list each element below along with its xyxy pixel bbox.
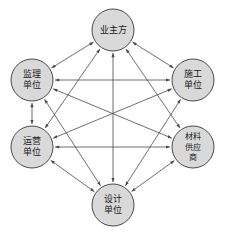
node-label-operation: 单位	[23, 146, 41, 157]
node-label-supplier: 商	[189, 152, 197, 162]
edge-operation-to-design	[51, 160, 95, 191]
node-supervision[interactable]: 监理单位	[11, 59, 53, 101]
node-label-supplier: 供应	[185, 142, 201, 152]
node-label-operation: 运营	[23, 135, 41, 146]
nodes-layer: 业主方监理单位施工单位运营单位材料供应商设计单位	[11, 9, 214, 226]
node-label-supervision: 监理	[23, 68, 41, 79]
edge-owner-to-operation	[45, 49, 100, 128]
graph-canvas: 业主方监理单位施工单位运营单位材料供应商设计单位	[0, 0, 226, 234]
node-supplier[interactable]: 材料供应商	[172, 126, 214, 168]
node-owner[interactable]: 业主方	[92, 9, 134, 51]
node-label-design: 设计	[104, 193, 122, 204]
edge-owner-to-supplier	[126, 49, 180, 128]
edge-owner-to-supervision	[52, 42, 94, 68]
node-label-supplier: 材料	[185, 131, 201, 141]
edges-layer	[32, 42, 181, 192]
node-operation[interactable]: 运营单位	[11, 126, 53, 168]
edge-owner-to-construction	[133, 42, 174, 68]
node-label-construction: 施工	[184, 68, 202, 79]
node-construction[interactable]: 施工单位	[172, 59, 214, 101]
node-design[interactable]: 设计单位	[92, 184, 134, 226]
node-label-construction: 单位	[184, 79, 202, 90]
stakeholder-relationship-diagram: 业主方监理单位施工单位运营单位材料供应商设计单位	[0, 0, 226, 234]
node-label-supervision: 单位	[23, 79, 41, 90]
node-label-design: 单位	[104, 204, 122, 215]
node-label-owner: 业主方	[100, 24, 127, 35]
